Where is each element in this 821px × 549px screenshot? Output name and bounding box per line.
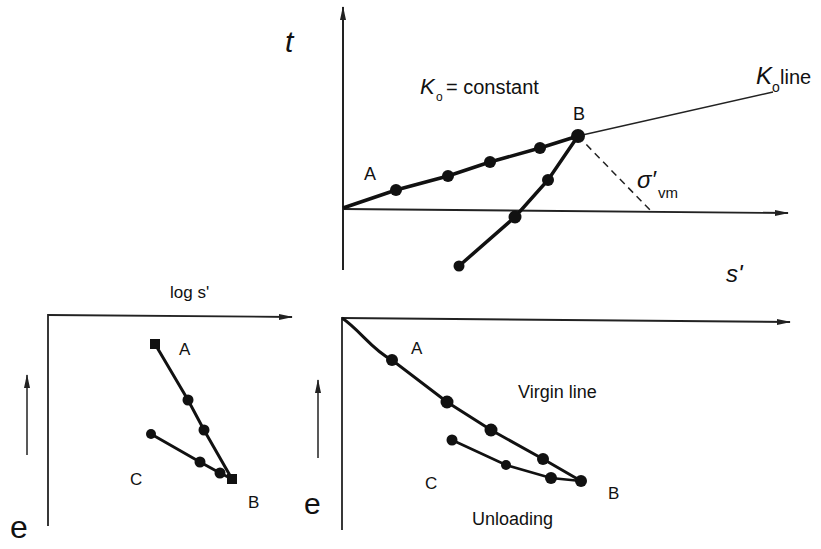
unloading-curve	[452, 440, 581, 481]
s-axis	[343, 209, 788, 213]
log-s-label: log s'	[170, 283, 209, 302]
k0-line	[578, 92, 773, 136]
k0-line-sub: o	[772, 79, 780, 95]
k0-constant-sub: o	[436, 90, 443, 104]
point-c-label-es: C	[425, 474, 437, 493]
k0-constant-k: K	[420, 74, 436, 99]
point-a-label-es: A	[411, 339, 423, 358]
data-markers	[390, 129, 585, 272]
k0-constant-text: = constant	[446, 76, 539, 98]
diagram-canvas: t s' K o = constant K o line A B σ′ vm l…	[0, 0, 821, 549]
e-label-left: e	[10, 509, 28, 545]
s-axis-bottom	[342, 318, 790, 322]
e-label-right: e	[304, 487, 321, 520]
bottom-right-panel: e A B C Virgin line Unloading	[304, 317, 790, 530]
k0-line-tail: line	[780, 66, 811, 88]
unloading-label: Unloading	[472, 509, 553, 529]
point-b-label: B	[573, 104, 585, 124]
s-axis-label: s'	[726, 260, 744, 287]
t-axis-label: t	[285, 25, 295, 58]
virgin-line-label: Virgin line	[518, 382, 597, 402]
sigma-label: σ′	[637, 166, 657, 193]
point-a-label-log: A	[179, 340, 191, 359]
point-b-label-log: B	[248, 493, 259, 512]
k0-line-k: K	[756, 62, 773, 89]
point-a-label: A	[364, 164, 376, 184]
bottom-left-panel: log s' e A B C	[10, 283, 292, 545]
top-panel: t s' K o = constant K o line A B σ′ vm	[285, 7, 811, 287]
log-s-axis	[48, 315, 292, 317]
point-c-label-log: C	[130, 470, 142, 489]
sigma-sub: vm	[658, 184, 678, 201]
point-b-label-es: B	[608, 484, 619, 503]
